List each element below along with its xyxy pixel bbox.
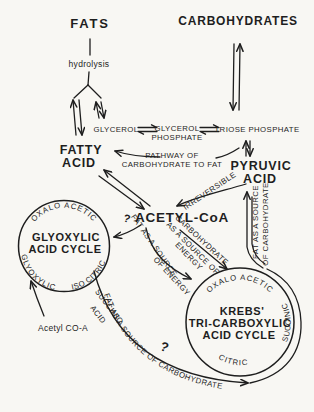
fattyacid-acetyl-arrow [99, 176, 144, 209]
metabolic-pathway-diagram: FATS CARBOHYDRATES hydrolysis GLYCEROL G… [0, 0, 314, 412]
glyoxylic-arc-right-label: ISO CITRIC [70, 259, 107, 292]
pyruvic-acid-label-line1: PYRUVIC [230, 159, 291, 173]
pyruvic-acid-label-line2: ACID [243, 172, 277, 186]
krebs-arc-bottom-label: CITRIC [217, 352, 248, 367]
krebs-title-line2: TRI-CARBOXYLIC [189, 317, 292, 329]
fats-glycerol-reversible-up-arrow [96, 102, 99, 118]
fat-carbohydrate-vertical-label-line2: OF CARBOHYDRATE [261, 182, 270, 265]
glycerol-phosphate-label-line2: PHOSPHATE [151, 133, 202, 142]
question-mark-bottom: ? [158, 338, 171, 355]
glyoxylic-title-line1: GLYOXYLIC [32, 231, 100, 243]
fatty-acid-label-line1: FATTY [60, 143, 103, 157]
glyoxylic-arc-top-label: OXALO ACETIC [29, 201, 99, 224]
glyoxylic-arc-left-label: GLYOXYLIC [19, 253, 57, 292]
fats-glycerol-reversible-down-arrow [101, 102, 104, 118]
glyoxylic-title-line2: ACID CYCLE [28, 243, 101, 255]
fork-right-line [88, 85, 101, 98]
diagram-canvas: FATS CARBOHYDRATES hydrolysis GLYCEROL G… [0, 0, 314, 412]
krebs-arc-top-label: OXALO ACETIC [205, 273, 276, 295]
fatty-acid-label-line2: ACID [62, 156, 96, 170]
acetyl-fattyacid-arrow [104, 170, 150, 206]
krebs-title-line3: ACID CYCLE [202, 329, 275, 341]
fork-left-line [74, 85, 88, 98]
triose-phosphate-label: TRIOSE PHOSPHATE [214, 125, 299, 134]
carbohydrates-triose-down-arrow [233, 44, 234, 110]
irreversible-label: IRREVERSIBLE [182, 170, 238, 212]
glycerol-label: GLYCEROL [93, 125, 138, 134]
krebs-title-line1: KREBS' [220, 305, 265, 317]
fats-label: FATS [70, 16, 109, 31]
acetyl-coa-small-label: Acetyl CO-A [38, 323, 88, 333]
glycerol-phosphate-label-line1: GLYCEROL [154, 124, 199, 133]
fats-fattyacid-reversible-down-arrow [79, 100, 82, 135]
fat-carbohydrate-vertical-label-line1: FAT AS A SOURCE [251, 185, 260, 259]
carbohydrates-label: CARBOHYDRATES [178, 14, 298, 28]
pathway-label-line2: CARBOHYDRATE TO FAT [122, 160, 223, 169]
pathway-tail-curve [216, 148, 239, 158]
hydrolysis-stem-line [88, 72, 89, 85]
hydrolysis-label: hydrolysis [69, 59, 110, 69]
pathway-label-line1: PATHWAY OF [145, 151, 198, 160]
fats-fattyacid-reversible-up-arrow [73, 100, 76, 135]
carbohydrates-triose-up-arrow [239, 44, 240, 110]
